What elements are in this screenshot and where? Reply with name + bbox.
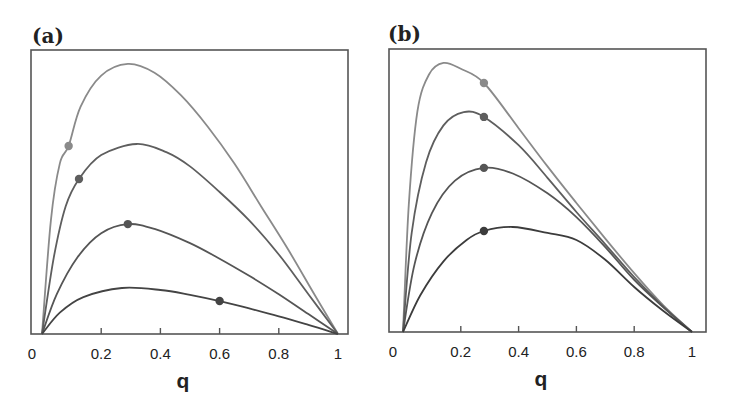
- x-tick-labels-a: 00.20.40.60.81: [28, 345, 342, 362]
- x-tick-label: 0.4: [150, 345, 171, 362]
- plot-frame-a: [31, 50, 348, 334]
- curve-3-marker: [124, 220, 132, 228]
- x-ticks-a: [101, 328, 279, 334]
- x-tick-label: 0.2: [450, 343, 471, 360]
- x-tick-label: 0.6: [209, 345, 230, 362]
- panel-b: (b) 00.20.40.60.81 q: [388, 22, 706, 390]
- curves-a: [42, 64, 338, 334]
- curve-4-line: [403, 227, 692, 332]
- x-tick-label: 0.8: [624, 343, 645, 360]
- curve-2-marker: [480, 113, 488, 121]
- curve-4-marker: [480, 227, 488, 235]
- x-tick-label: 1: [688, 343, 696, 360]
- panel-label-b: (b): [388, 22, 421, 46]
- x-tick-labels-b: 00.20.40.60.81: [389, 343, 696, 360]
- x-axis-title-b: q: [535, 367, 548, 390]
- figure: (a) 00.20.40.60.81 q (b) 00.20.40.60.81 …: [0, 0, 730, 414]
- x-tick-label: 0.2: [91, 345, 112, 362]
- curve-3-line: [403, 168, 692, 332]
- x-tick-label: 1: [334, 345, 342, 362]
- panel-a: (a) 00.20.40.60.81 q: [28, 24, 348, 392]
- x-tick-label: 0.4: [508, 343, 529, 360]
- curve-1-marker: [480, 79, 488, 87]
- curve-1-marker: [64, 142, 72, 150]
- panel-label-a: (a): [32, 24, 64, 48]
- x-tick-label: 0.8: [268, 345, 289, 362]
- x-tick-label: 0: [28, 345, 36, 362]
- curve-3-marker: [480, 164, 488, 172]
- curve-4-line: [42, 288, 338, 334]
- curve-2-marker: [75, 175, 83, 183]
- x-tick-label: 0: [389, 343, 397, 360]
- x-tick-label: 0.6: [566, 343, 587, 360]
- x-ticks-b: [461, 326, 634, 332]
- curve-3-line: [42, 224, 338, 334]
- curve-4-marker: [215, 297, 223, 305]
- curve-1-line: [42, 64, 338, 334]
- markers-b: [480, 79, 488, 235]
- curves-b: [403, 63, 692, 332]
- curve-2-line: [42, 144, 338, 334]
- x-axis-title-a: q: [177, 369, 190, 392]
- plot-frame-b: [389, 49, 706, 332]
